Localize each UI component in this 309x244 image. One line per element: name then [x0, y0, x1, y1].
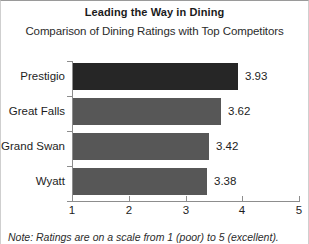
category-label-great-falls: Great Falls: [1, 105, 65, 117]
x-axis-tick-3: [186, 196, 187, 202]
category-label-grand-swan: Grand Swan: [1, 140, 65, 152]
x-axis-label-3: 3: [176, 204, 196, 216]
value-label-prestigio: 3.93: [245, 70, 267, 82]
x-axis-tick-5: [299, 196, 300, 202]
plot-area: Prestigio Great Falls Grand Swan Wyatt 3…: [1, 1, 309, 244]
x-axis-label-4: 4: [232, 204, 252, 216]
y-axis-tick-2: [67, 131, 73, 132]
x-axis-tick-2: [129, 196, 130, 202]
category-label-wyatt: Wyatt: [1, 175, 65, 187]
y-axis-tick-0: [67, 61, 73, 62]
chart-figure: Leading the Way in Dining Comparison of …: [0, 0, 309, 244]
chart-note: Note: Ratings are on a scale from 1 (poo…: [8, 231, 279, 243]
x-axis-label-2: 2: [119, 204, 139, 216]
value-label-great-falls: 3.62: [228, 105, 250, 117]
x-axis-label-5: 5: [289, 204, 309, 216]
x-axis-tick-4: [242, 196, 243, 202]
category-label-prestigio: Prestigio: [1, 70, 65, 82]
x-axis-tick-1: [72, 196, 73, 202]
value-label-grand-swan: 3.42: [216, 140, 238, 152]
value-label-wyatt: 3.38: [214, 175, 236, 187]
bar-grand-swan: [72, 133, 209, 160]
bar-wyatt: [72, 168, 207, 195]
y-axis-tick-1: [67, 96, 73, 97]
y-axis-tick-3: [67, 166, 73, 167]
bar-prestigio: [72, 63, 238, 90]
bar-great-falls: [72, 98, 221, 125]
x-axis-label-1: 1: [62, 204, 82, 216]
